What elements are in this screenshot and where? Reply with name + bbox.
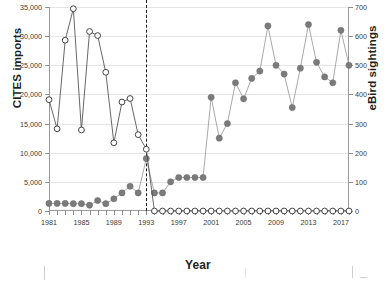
plot-area [49,7,349,211]
ebird-sightings-marker [216,135,222,141]
ebird-sightings-marker [192,174,198,180]
ebird-sightings-line [49,24,349,205]
ebird-sightings-marker [281,71,287,77]
ebird-sightings-marker [232,80,238,86]
y-tickmark-right [349,153,353,154]
ebird-sightings-marker [200,174,206,180]
cites-imports-marker [338,208,344,214]
y-ticklabel-left: 30,000 [0,32,42,41]
ebird-sightings-marker [322,74,328,80]
x-tickmark [106,211,107,215]
cites-imports-marker [249,208,255,214]
cites-imports-marker [119,99,125,105]
ebird-sightings-marker [86,202,92,208]
ebird-sightings-marker [265,23,271,29]
y-ticklabel-right: 300 [355,120,383,129]
x-tickmark [49,211,50,215]
cites-imports-marker [103,69,109,75]
ebird-sightings-marker [111,196,117,202]
cites-imports-marker [330,208,336,214]
cites-imports-marker [184,208,190,214]
cites-imports-marker [224,208,230,214]
x-ticklabel: 1981 [35,218,63,227]
cites-imports-marker [192,208,198,214]
x-tickmark [90,211,91,215]
x-ticklabel: 2005 [230,218,258,227]
y-tickmark-right [349,7,353,8]
ebird-sightings-marker [224,120,230,126]
x-tickmark [73,211,74,215]
chart-figure: CITES imports eBird sightings Year 05,00… [0,0,389,282]
ebird-sightings-marker [143,155,149,161]
y-ticklabel-right: 100 [355,178,383,187]
cites-imports-marker [346,208,352,214]
ebird-sightings-marker [70,201,76,207]
x-ticklabel: 2013 [294,218,322,227]
ebird-sightings-marker [305,21,311,27]
y-ticklabel-right: 600 [355,32,383,41]
cites-imports-marker [62,37,68,43]
cites-imports-marker [216,208,222,214]
y-tickmark-right [349,94,353,95]
cites-imports-marker [95,33,101,39]
x-ticklabel: 2017 [327,218,355,227]
y-ticklabel-right: 500 [355,61,383,70]
x-tickmark [130,211,131,215]
x-tickmark [81,211,82,215]
ebird-sightings-marker [62,200,68,206]
ebird-sightings-marker [176,174,182,180]
x-ticklabel: 2001 [197,218,225,227]
y-ticklabel-right: 700 [355,3,383,12]
cites-imports-marker [265,208,271,214]
y-tickmark-right [349,124,353,125]
y-ticklabel-right: 400 [355,90,383,99]
ebird-sightings-marker [257,68,263,74]
ebird-sightings-marker [240,96,246,102]
cites-imports-marker [111,140,117,146]
cites-imports-marker [314,208,320,214]
x-ticklabel: 1997 [165,218,193,227]
cites-imports-marker [54,126,60,132]
ebird-sightings-marker [95,197,101,203]
y-ticklabel-left: 25,000 [0,61,42,70]
ebird-sightings-marker [208,94,214,100]
y-ticklabel-left: 20,000 [0,90,42,99]
y-ticklabel-left: 5,000 [0,178,42,187]
cites-imports-marker [70,6,76,12]
x-tickmark [138,211,139,215]
page-artifact-left [44,266,45,280]
ebird-sightings-marker [338,27,344,33]
ebird-sightings-marker [184,174,190,180]
ebird-sightings-marker [54,200,60,206]
cites-imports-marker [127,96,133,102]
x-ticklabel: 1989 [100,218,128,227]
cites-imports-marker [233,208,239,214]
cites-imports-marker [200,208,206,214]
cites-imports-marker [176,208,182,214]
y-tickmark-left [45,211,49,212]
y-ticklabel-left: 35,000 [0,3,42,12]
x-axis-title: Year [118,258,278,272]
cites-imports-marker [208,208,214,214]
x-tickmark [146,211,147,215]
ebird-sightings-marker [297,65,303,71]
ebird-sightings-marker [127,183,133,189]
x-tickmark [114,211,115,215]
ebird-sightings-marker [346,62,352,68]
page-artifact-right-dash [360,277,367,278]
x-tickmark [57,211,58,215]
y-tickmark-right [349,182,353,183]
ebird-sightings-marker [249,75,255,81]
ebird-sightings-marker [159,190,165,196]
ebird-sightings-marker [289,104,295,110]
cites-imports-marker [297,208,303,214]
y-ticklabel-left: 0 [0,207,42,216]
x-tickmark [98,211,99,215]
ebird-sightings-marker [103,201,109,207]
cites-imports-marker [87,29,93,35]
cites-imports-marker [273,208,279,214]
cites-imports-marker [241,208,247,214]
ebird-sightings-marker [119,190,125,196]
ebird-sightings-marker [135,190,141,196]
cites-imports-marker [143,146,149,152]
